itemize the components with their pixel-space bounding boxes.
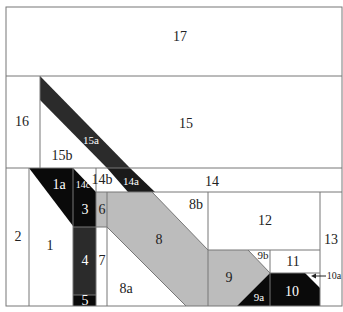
- label-11: 11: [286, 254, 299, 269]
- label-10a: 10a: [327, 270, 342, 281]
- label-3: 3: [82, 202, 89, 217]
- label-15b: 15b: [52, 148, 73, 163]
- label-9b: 9b: [258, 249, 270, 261]
- piece-1a: [29, 168, 73, 226]
- label-1a: 1a: [52, 177, 66, 192]
- label-12: 12: [258, 213, 272, 228]
- label-9a: 9a: [254, 291, 265, 303]
- label-15: 15: [179, 116, 193, 131]
- label-8: 8: [156, 232, 163, 247]
- quilt-diagram: 17 16 15 15a 15b 14 14a 14b 14c 13 12 11…: [0, 0, 343, 312]
- label-1: 1: [47, 238, 54, 253]
- label-5: 5: [82, 293, 89, 308]
- arrowhead-10a-icon: [311, 274, 316, 279]
- label-8b: 8b: [189, 197, 203, 212]
- label-10: 10: [285, 284, 299, 299]
- label-4: 4: [82, 253, 89, 268]
- label-6: 6: [99, 202, 106, 217]
- label-8a: 8a: [119, 281, 133, 296]
- label-15a: 15a: [83, 134, 99, 146]
- label-9: 9: [226, 270, 233, 285]
- label-14c: 14c: [76, 179, 91, 190]
- label-14: 14: [205, 174, 219, 189]
- label-14b: 14b: [92, 172, 113, 187]
- label-14a: 14a: [123, 175, 139, 187]
- label-17: 17: [173, 29, 187, 44]
- label-16: 16: [15, 114, 29, 129]
- label-7: 7: [99, 253, 106, 268]
- label-13: 13: [324, 232, 338, 247]
- label-2: 2: [15, 229, 22, 244]
